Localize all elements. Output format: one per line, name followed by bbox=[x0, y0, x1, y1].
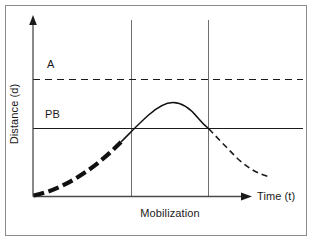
x-axis-arrowhead bbox=[241, 193, 252, 201]
curve-segment-mobilization bbox=[122, 103, 210, 142]
curve-segment-post-mobilization bbox=[209, 129, 268, 177]
threshold-a-label: A bbox=[47, 58, 54, 70]
y-axis-arrowhead bbox=[29, 15, 37, 25]
threshold-pb-label: PB bbox=[45, 108, 60, 120]
x-axis-label: Time (t) bbox=[257, 190, 295, 202]
curve-segment-pre-mobilization bbox=[34, 142, 122, 196]
mobilization-span-label: Mobilization bbox=[131, 207, 209, 219]
y-axis-label: Distance (d) bbox=[8, 66, 20, 162]
figure-container: Distance (d) Time (t) A PB Mobilization bbox=[0, 0, 315, 244]
